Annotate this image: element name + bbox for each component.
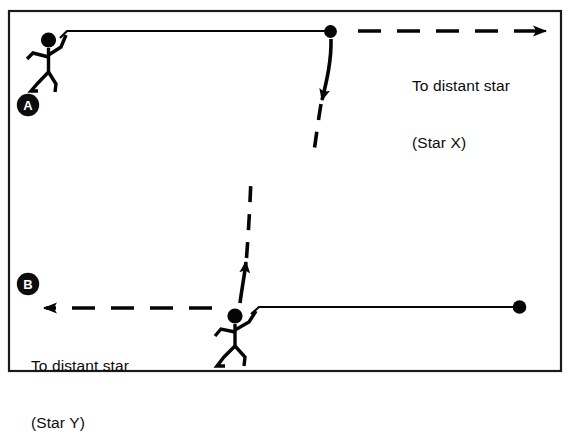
beam-up-dashes bbox=[247, 178, 252, 258]
stick-leg-front bbox=[49, 72, 57, 92]
beam-down-dashes bbox=[314, 104, 322, 155]
stick-figure-observer-a bbox=[27, 32, 66, 92]
beam-down-head-segment bbox=[322, 39, 331, 100]
badge-letter-b: B bbox=[23, 277, 32, 292]
stick-leg-back bbox=[217, 346, 235, 366]
stick-arm-back bbox=[27, 53, 49, 59]
stick-head-icon bbox=[41, 32, 56, 47]
stick-figure-observer-b bbox=[215, 308, 256, 366]
badge-letter-a: A bbox=[23, 98, 33, 113]
caption-star-x-line1: To distant star bbox=[412, 77, 510, 96]
stick-arm-back bbox=[215, 329, 235, 336]
caption-star-y: To distant star (Star Y) bbox=[31, 319, 129, 435]
caption-star-x: To distant star (Star X) bbox=[412, 39, 510, 190]
caption-star-x-line2: (Star X) bbox=[412, 134, 510, 153]
panel-badge-b: B bbox=[17, 273, 39, 295]
stick-leg-back bbox=[31, 72, 49, 91]
emission-dot-b bbox=[513, 300, 527, 314]
stick-leg-front bbox=[235, 346, 245, 366]
light-path-solid-a bbox=[60, 31, 329, 38]
beam-up-head-segment bbox=[240, 262, 246, 303]
panel-badge-a: A bbox=[17, 94, 39, 116]
caption-star-y-line2: (Star Y) bbox=[31, 414, 129, 433]
emission-dot-a bbox=[324, 25, 337, 38]
stick-head-icon bbox=[227, 308, 242, 323]
light-path-solid-b bbox=[251, 307, 518, 314]
caption-star-y-line1: To distant star bbox=[31, 357, 129, 376]
